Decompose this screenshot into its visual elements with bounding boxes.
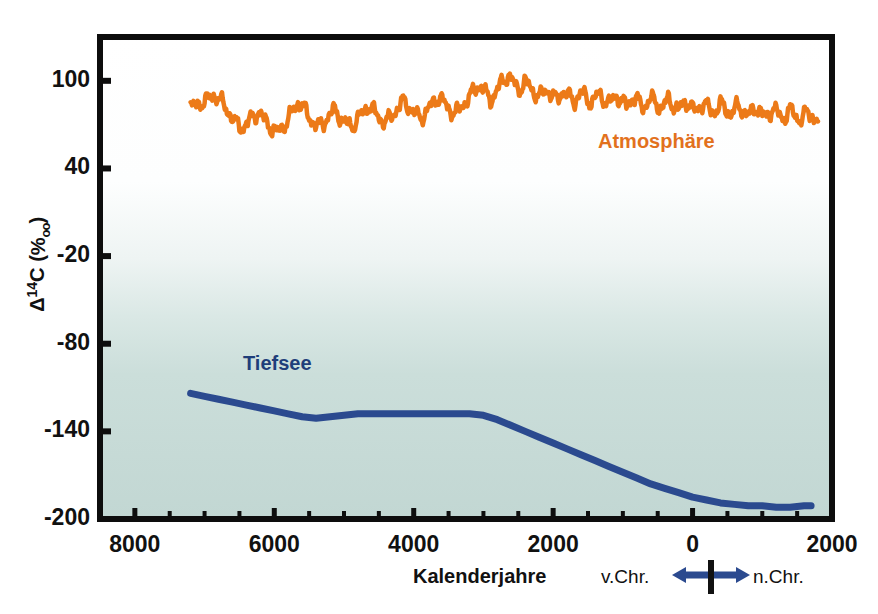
y-tick-label: 100 — [0, 66, 90, 93]
y-tick-label: -200 — [0, 504, 90, 531]
y-axis-superscript: 14 — [24, 282, 40, 298]
chart-figure: Δ14C (%oo) Kalenderjahre v.Chr. n.Chr. A… — [0, 0, 878, 614]
x-tick-label: 4000 — [354, 531, 474, 558]
y-tick-label: -80 — [0, 329, 90, 356]
y-tick-label: -20 — [0, 241, 90, 268]
x-tick-label: 8000 — [75, 531, 195, 558]
y-unit-close: ) — [26, 217, 48, 224]
plot-background — [100, 37, 832, 519]
y-tick-label: -140 — [0, 416, 90, 443]
y-axis-element: C — [26, 267, 48, 281]
series-label-tiefsee: Tiefsee — [243, 352, 312, 375]
x-tick-label: 0 — [633, 531, 753, 558]
era-before-christ-label: v.Chr. — [601, 566, 649, 588]
x-axis-title: Kalenderjahre — [413, 565, 546, 588]
x-tick-label: 2000 — [493, 531, 613, 558]
x-tick-label: 6000 — [214, 531, 334, 558]
era-after-christ-label: n.Chr. — [753, 566, 804, 588]
chart-canvas — [0, 0, 878, 614]
era-double-arrow-icon — [672, 560, 750, 594]
y-axis-delta: Δ — [26, 297, 48, 311]
y-tick-label: 40 — [0, 153, 90, 180]
x-tick-label: 2000 — [772, 531, 878, 558]
series-label-atmosphaere: Atmosphäre — [598, 130, 715, 153]
